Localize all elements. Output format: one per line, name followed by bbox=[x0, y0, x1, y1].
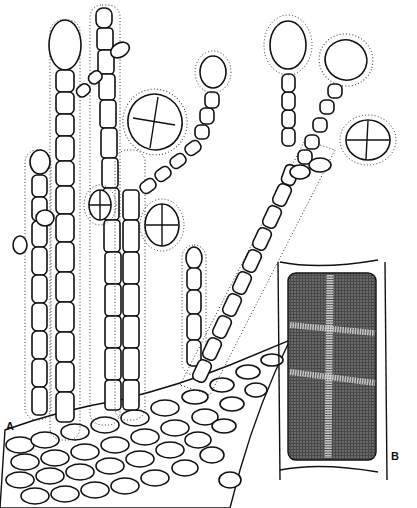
sporangium-cruciate-2 bbox=[140, 199, 184, 251]
filament-1 bbox=[49, 20, 81, 440]
illustration: A B bbox=[0, 0, 417, 508]
filament-4 bbox=[13, 150, 54, 420]
figure-panel-b-drawing bbox=[278, 260, 387, 480]
panel-a-label: A bbox=[6, 420, 14, 432]
sporangium-cruciate-1 bbox=[114, 80, 197, 164]
panel-b-label: B bbox=[391, 450, 399, 462]
figure-panel-a-drawing bbox=[0, 0, 417, 508]
